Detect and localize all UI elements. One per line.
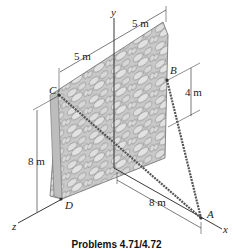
point-d-label: D	[64, 199, 73, 211]
a-distance-dimension-label: 8 m	[149, 196, 166, 208]
top-right-dimension-label: 5 m	[132, 17, 149, 29]
y-axis-label: y	[110, 6, 116, 18]
extension-line	[168, 110, 200, 127]
z-axis-label: z	[11, 220, 17, 232]
x-axis	[114, 168, 222, 229]
point-a-label: A	[206, 208, 214, 220]
z-axis	[18, 199, 62, 223]
wall-cable-diagram: y x z A B C D 5 m 5 m 4 m 8 m 8 m	[0, 0, 233, 251]
point-d	[59, 197, 62, 200]
b-height-dimension-label: 4 m	[185, 86, 202, 98]
point-b	[165, 78, 168, 81]
point-b-label: B	[170, 64, 177, 76]
point-c-label: C	[49, 84, 57, 96]
top-left-dimension-label: 5 m	[74, 50, 91, 62]
x-axis-label: x	[222, 223, 228, 235]
cable-ab	[167, 80, 201, 218]
point-c	[57, 93, 60, 96]
wall-height-dimension-label: 8 m	[28, 155, 45, 167]
point-a	[199, 216, 202, 219]
stone-wall	[50, 22, 168, 199]
figure-caption: Problems 4.71/4.72	[0, 239, 233, 250]
